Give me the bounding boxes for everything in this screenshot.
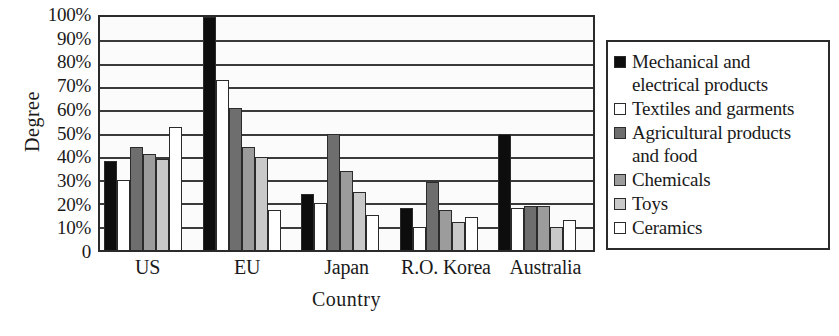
bar — [537, 206, 550, 250]
x-axis-tick-3: R.O. Korea — [396, 256, 495, 286]
x-axis-title: Country — [98, 288, 595, 311]
bar — [400, 208, 413, 250]
y-axis-tick: 0 — [82, 241, 91, 263]
bars-layer — [100, 17, 593, 250]
bar — [301, 194, 314, 250]
bar-chart: Degree 100%90%80%70%60%50%40%30%20%10%0 … — [0, 0, 839, 336]
bar — [268, 210, 281, 250]
y-axis-tick: 90% — [57, 28, 91, 50]
x-axis-tick-labels: USEUJapanR.O. KoreaAustralia — [98, 256, 595, 286]
bar — [216, 80, 229, 250]
legend-item: Mechanical and electrical products — [614, 50, 820, 96]
y-axis-tick: 60% — [57, 99, 91, 121]
bar — [255, 157, 268, 250]
legend-item-label: Chemicals — [632, 168, 710, 191]
bar — [366, 215, 379, 250]
bar — [353, 192, 366, 250]
bar — [439, 210, 452, 250]
bar — [327, 134, 340, 251]
legend-item-label: Textiles and garments — [632, 97, 794, 120]
legend-item: Chemicals — [614, 168, 820, 191]
x-axis-tick-1: EU — [197, 256, 296, 286]
bar — [169, 127, 182, 250]
bar — [156, 159, 169, 250]
y-axis-tick: 100% — [48, 4, 91, 26]
y-axis-tick: 30% — [57, 170, 91, 192]
bar — [242, 147, 255, 250]
y-axis-tick: 20% — [57, 194, 91, 216]
bar — [413, 227, 426, 250]
bar — [550, 227, 563, 250]
y-axis-tick: 50% — [57, 123, 91, 145]
bar — [426, 182, 439, 250]
legend-item-label: Mechanical and electrical products — [632, 50, 820, 96]
x-axis-tick-0: US — [98, 256, 197, 286]
bar — [130, 147, 143, 250]
bar — [314, 203, 327, 250]
bar — [524, 206, 537, 250]
bar-group — [396, 17, 495, 250]
light-gray-square-icon — [614, 198, 626, 210]
dark-gray-square-icon — [614, 127, 626, 139]
bar — [563, 220, 576, 250]
bar-group — [297, 17, 396, 250]
y-axis-tick: 10% — [57, 217, 91, 239]
x-axis-tick-4: Australia — [496, 256, 595, 286]
bar — [498, 134, 511, 251]
medium-gray-square-icon — [614, 174, 626, 186]
black-square-icon — [614, 56, 626, 68]
legend-item: Agricultural products and food — [614, 121, 820, 167]
white-square-icon — [614, 103, 626, 115]
legend-item-label: Agricultural products and food — [632, 121, 820, 167]
y-axis-tick: 80% — [57, 51, 91, 73]
bar — [104, 161, 117, 250]
bar-group — [494, 17, 593, 250]
plot-area — [98, 15, 595, 252]
y-axis-tick: 70% — [57, 75, 91, 97]
bar-group — [199, 17, 298, 250]
legend-item: Textiles and garments — [614, 97, 820, 120]
bar — [511, 208, 524, 250]
bar — [452, 222, 465, 250]
legend-item: Toys — [614, 192, 820, 215]
chart-legend: Mechanical and electrical productsTextil… — [606, 40, 830, 250]
bar — [117, 180, 130, 250]
y-axis-tick: 40% — [57, 146, 91, 168]
bar-group — [100, 17, 199, 250]
bar — [229, 108, 242, 250]
x-axis-tick-2: Japan — [297, 256, 396, 286]
bar — [340, 171, 353, 250]
legend-item: Ceramics — [614, 216, 820, 239]
bar — [143, 154, 156, 250]
bar — [203, 17, 216, 250]
y-axis-tick-labels: 100%90%80%70%60%50%40%30%20%10%0 — [38, 15, 94, 252]
white-square-icon — [614, 222, 626, 234]
legend-item-label: Toys — [632, 192, 668, 215]
legend-item-label: Ceramics — [632, 216, 702, 239]
bar — [465, 217, 478, 250]
